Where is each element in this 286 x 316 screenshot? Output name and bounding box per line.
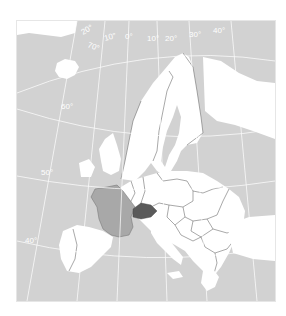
label-lon-e40: 40° — [213, 26, 225, 35]
label-lon-0: 0° — [125, 32, 133, 41]
label-lon-e10: 10° — [147, 34, 159, 43]
label-lat-50: 50° — [41, 168, 53, 177]
label-lat-40: 40° — [25, 236, 37, 245]
label-lat-60: 60° — [61, 102, 73, 111]
map-frame: 20° 10° 0° 10° 20° 30° 40° 70° 60° 50° 4… — [16, 20, 276, 302]
label-lon-e30: 30° — [189, 30, 201, 39]
europe-map: 20° 10° 0° 10° 20° 30° 40° 70° 60° 50° 4… — [17, 21, 275, 301]
label-lon-e20: 20° — [165, 34, 177, 43]
